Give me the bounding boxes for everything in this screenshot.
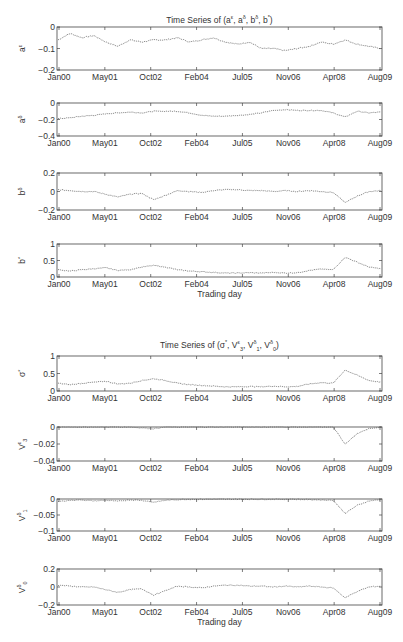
- subplot-7: Jan00May01Oct02Feb04Jul05Nov06Apr08Aug09…: [0, 0, 403, 642]
- svg-text:Oct02: Oct02: [139, 607, 162, 617]
- svg-text:Aug09: Aug09: [368, 607, 393, 617]
- svg-text:0: 0: [50, 582, 55, 592]
- svg-text:Jul05: Jul05: [232, 607, 253, 617]
- svg-text:May01: May01: [92, 607, 118, 617]
- svg-text:−0.2: −0.2: [38, 600, 55, 610]
- x-axis-label: Trading day: [57, 617, 382, 627]
- y-axis-label: Vδ0: [16, 572, 29, 602]
- svg-text:Feb04: Feb04: [185, 607, 209, 617]
- series-line: [58, 585, 381, 598]
- svg-text:Apr08: Apr08: [323, 607, 346, 617]
- svg-text:0.2: 0.2: [43, 564, 55, 574]
- svg-text:Nov06: Nov06: [276, 607, 301, 617]
